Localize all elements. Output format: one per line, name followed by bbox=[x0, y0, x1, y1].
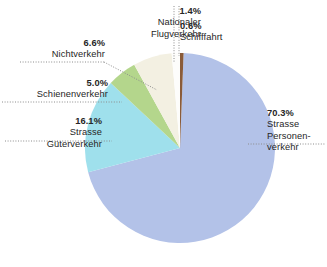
slice-name-schifffahrt-line1: Schifffahrt bbox=[180, 32, 223, 43]
slice-name-strasse-gueterverkehr-line2: Güterverkehr bbox=[5, 139, 102, 150]
slice-label-strasse-personenverkehr: 70.3% Strasse Personen- verkehr bbox=[267, 108, 311, 154]
slice-percent-strasse-personenverkehr: 70.3% bbox=[267, 108, 311, 119]
slice-name-strasse-gueterverkehr-line1: Strasse bbox=[5, 127, 102, 138]
slice-name-schienenverkehr-line1: Schienenverkehr bbox=[2, 89, 108, 100]
slice-percent-schienenverkehr: 5.0% bbox=[2, 78, 108, 89]
slice-label-schienenverkehr: 5.0% Schienenverkehr bbox=[2, 78, 108, 101]
slice-name-nichtverkehr-line1: Nichtverkehr bbox=[12, 49, 105, 60]
slice-label-strasse-gueterverkehr: 16.1% Strasse Güterverkehr bbox=[5, 116, 102, 150]
slice-name-strasse-personenverkehr-line1: Strasse bbox=[267, 119, 311, 130]
slice-percent-strasse-gueterverkehr: 16.1% bbox=[5, 116, 102, 127]
slice-label-nichtverkehr: 6.6% Nichtverkehr bbox=[12, 38, 105, 61]
pie-slices bbox=[85, 53, 275, 243]
slice-percent-nationaler-flugverkehr: 1.4% bbox=[111, 6, 201, 17]
slice-name-strasse-personenverkehr-line2: Personen- bbox=[267, 131, 311, 142]
scan-artifact bbox=[0, 0, 120, 6]
slice-percent-schifffahrt: 0.6% bbox=[180, 21, 223, 32]
slice-name-strasse-personenverkehr-line3: verkehr bbox=[267, 142, 311, 153]
slice-label-schifffahrt: 0.6% Schifffahrt bbox=[180, 21, 223, 44]
pie-chart: 70.3% Strasse Personen- verkehr 16.1% St… bbox=[0, 0, 327, 267]
slice-percent-nichtverkehr: 6.6% bbox=[12, 38, 105, 49]
